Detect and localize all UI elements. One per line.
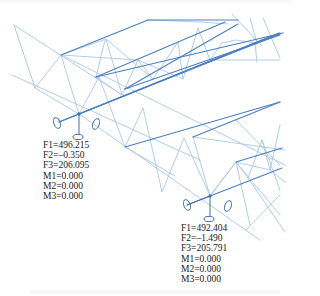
reaction-m3: M3=0.000 [43,191,89,201]
reaction-f1: F1=492.404 [181,223,227,233]
cropped-footer-remnant [30,290,280,294]
reaction-f1: F1=496.215 [43,140,89,150]
support-1-reactions: F1=496.215 F2=–0.350 F3=206.095 M1=0.000… [43,140,89,201]
support-1-ellipse-left [52,117,62,130]
support-2-ellipse-bottom [204,216,214,221]
support-2-symbol [182,195,233,222]
reaction-m2: M2=0.000 [43,181,89,191]
reaction-f2: F2=–0.350 [43,150,89,160]
reaction-m1: M1=0.000 [181,254,227,264]
chord-members [59,20,283,205]
support-2-node [209,195,211,197]
support-1-symbol [52,113,101,140]
reaction-f3: F3=205.791 [181,243,227,253]
reaction-f3: F3=206.095 [43,160,89,170]
reaction-m2: M2=0.000 [181,264,227,274]
reaction-m1: M1=0.000 [43,171,89,181]
support-1-node [78,113,80,115]
support-2-ellipse-right [223,200,233,213]
support-1-ellipse-bottom [73,134,83,139]
support-2-reactions: F1=492.404 F2=–1.490 F3=205.791 M1=0.000… [181,223,227,284]
reaction-f2: F2=–1.490 [181,233,227,243]
reaction-m3: M3=0.000 [181,274,227,284]
